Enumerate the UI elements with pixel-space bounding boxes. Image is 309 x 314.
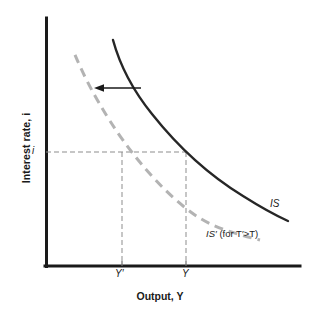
is-curve-shift-figure: Interest rate, i Output, Y IS IS′ (for T… — [0, 0, 309, 314]
y-axis-title: Interest rate, i — [20, 78, 32, 218]
y-axis-tick-label-i: i — [32, 145, 34, 156]
plot-canvas — [0, 0, 309, 314]
is-curve-label: IS — [270, 198, 279, 209]
is-prime-curve-label: IS′ (for T′>T) — [206, 228, 258, 239]
x-axis-tick-label-y: Y — [182, 268, 189, 279]
is-prime-curve-label-name: IS′ — [206, 228, 217, 239]
x-axis-title: Output, Y — [110, 290, 210, 302]
is-curve — [113, 40, 288, 221]
x-axis-tick-label-y-prime: Y′ — [115, 268, 124, 279]
is-prime-curve — [75, 55, 260, 240]
is-prime-curve-condition: (for T′>T) — [217, 228, 258, 239]
